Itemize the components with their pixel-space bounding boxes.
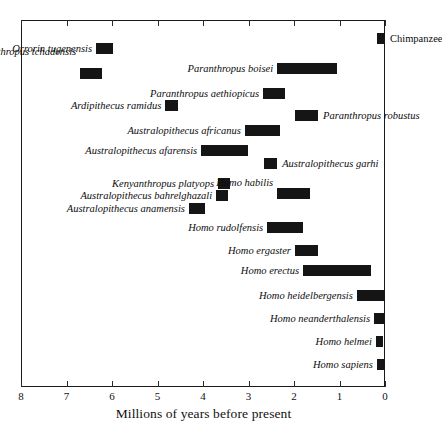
taxon-label: Homo sapiens <box>313 359 373 370</box>
taxon-label: Paranthropus boisei <box>188 63 274 74</box>
taxon-row: Australopithecus garhi <box>0 158 407 172</box>
taxon-row: Homo ergaster <box>0 245 407 259</box>
x-tick-label: 2 <box>284 390 304 402</box>
x-tick-top <box>158 20 159 26</box>
range-bar <box>245 125 280 136</box>
x-tick-label: 6 <box>102 390 122 402</box>
x-tick-top <box>385 20 386 26</box>
x-tick-label: 1 <box>330 390 350 402</box>
x-tick-label: 8 <box>11 390 31 402</box>
x-tick-bottom <box>112 381 113 387</box>
taxon-row: Homo rudolfensis <box>0 222 407 236</box>
taxon-label: Homo helmei <box>316 336 372 347</box>
x-tick-top <box>249 20 250 26</box>
x-tick-top <box>67 20 68 26</box>
x-tick-bottom <box>385 381 386 387</box>
range-bar <box>303 265 371 276</box>
taxon-label: Australopithecus africanus <box>127 125 240 136</box>
x-tick-bottom <box>67 381 68 387</box>
taxon-label: Sahelanthropus tchadensis <box>0 46 76 57</box>
range-bar <box>374 313 385 324</box>
x-tick-top <box>340 20 341 26</box>
x-tick-bottom <box>158 381 159 387</box>
taxon-row: Homo neanderthalensis <box>0 313 407 327</box>
x-tick-top <box>203 20 204 26</box>
taxon-label: Homo neanderthalensis <box>270 313 370 324</box>
taxon-label: Australopithecus anamensis <box>67 203 185 214</box>
taxon-row: Homo habilis <box>0 188 407 202</box>
range-bar <box>264 158 277 169</box>
range-bar <box>277 63 337 74</box>
x-tick-label: 3 <box>239 390 259 402</box>
x-tick-bottom <box>294 381 295 387</box>
taxon-label: Homo ergaster <box>228 245 291 256</box>
taxon-label: Homo rudolfensis <box>188 222 263 233</box>
range-bar <box>277 188 310 199</box>
taxon-label: Homo heidelbergensis <box>259 290 353 301</box>
x-tick-bottom <box>249 381 250 387</box>
range-bar <box>295 110 318 121</box>
taxon-row: Paranthropus boisei <box>0 63 407 77</box>
taxon-label: Homo habilis <box>216 177 273 188</box>
taxon-row: Australopithecus afarensis <box>0 145 407 159</box>
taxon-row: Homo heidelbergensis <box>0 290 407 304</box>
taxon-row: Australopithecus anamensis <box>0 203 407 217</box>
range-bar <box>377 359 385 370</box>
x-tick-label: 0 <box>375 390 395 402</box>
range-bar <box>263 88 285 99</box>
x-tick-bottom <box>340 381 341 387</box>
range-bar <box>295 245 318 256</box>
taxon-row: Australopithecus africanus <box>0 125 407 139</box>
taxon-label: Homo erectus <box>241 265 299 276</box>
taxon-label: Australopithecus garhi <box>282 158 378 169</box>
taxon-label: Paranthropus aethiopicus <box>150 88 259 99</box>
x-tick-label: 5 <box>148 390 168 402</box>
x-tick-top <box>294 20 295 26</box>
x-tick-top <box>112 20 113 26</box>
x-tick-top <box>21 20 22 26</box>
taxon-label: Australopithecus afarensis <box>85 145 197 156</box>
range-bar <box>189 203 205 214</box>
range-bar <box>357 290 385 301</box>
x-tick-label: 7 <box>57 390 77 402</box>
taxon-label: Paranthropus robustus <box>323 110 419 121</box>
range-bar <box>201 145 248 156</box>
taxon-row: Homo sapiens <box>0 359 407 373</box>
x-tick-bottom <box>21 381 22 387</box>
taxon-row: Homo helmei <box>0 336 407 350</box>
range-bar <box>376 336 383 347</box>
x-tick-label: 4 <box>193 390 213 402</box>
x-axis-title: Millions of years before present <box>0 406 407 422</box>
x-tick-bottom <box>203 381 204 387</box>
taxon-row: Paranthropus robustus <box>0 110 407 124</box>
range-bar <box>267 222 303 233</box>
taxon-row: Homo erectus <box>0 265 407 279</box>
range-bar <box>96 43 113 54</box>
